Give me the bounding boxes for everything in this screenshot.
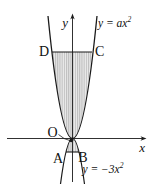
label-group: D C A B O y x y = ax2 y = −3x2 <box>39 15 145 176</box>
x-axis-label: x <box>138 140 145 155</box>
equation-lower-exponent: 2 <box>120 161 124 170</box>
equation-upper-parabola: y = ax2 <box>97 15 131 30</box>
equation-upper-base: y = ax <box>97 17 128 30</box>
parabola-figure: D C A B O y x y = ax2 y = −3x2 <box>0 0 150 186</box>
point-label-C: C <box>95 44 104 59</box>
figure-canvas: D C A B O y x y = ax2 y = −3x2 <box>0 0 150 186</box>
origin-label: O <box>47 125 57 140</box>
equation-lower-parabola: y = −3x2 <box>82 161 124 176</box>
origin-dot <box>69 138 73 142</box>
equation-upper-exponent: 2 <box>127 15 131 24</box>
y-axis-label: y <box>60 15 68 30</box>
equation-lower-base: y = −3x <box>82 163 121 176</box>
point-label-D: D <box>39 44 49 59</box>
point-label-A: A <box>53 151 64 166</box>
